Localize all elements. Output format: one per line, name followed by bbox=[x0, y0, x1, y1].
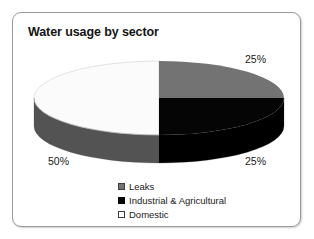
legend-item-leaks: Leaks bbox=[118, 180, 226, 193]
legend-label-industrial-agricultural: Industrial & Agricultural bbox=[129, 196, 226, 206]
legend-item-industrial-agricultural: Industrial & Agricultural bbox=[118, 194, 226, 207]
screenshot-root: Water usage by sector 25% 25% bbox=[0, 0, 314, 239]
legend-swatch-domestic bbox=[118, 211, 125, 218]
pie-label-industrial-agricultural: 25% bbox=[245, 155, 266, 167]
pie-chart: 25% 25% 50% bbox=[13, 37, 300, 177]
legend-label-leaks: Leaks bbox=[129, 182, 154, 192]
chart-legend: Leaks Industrial & Agricultural Domestic bbox=[118, 180, 226, 222]
legend-swatch-industrial-agricultural bbox=[118, 197, 125, 204]
legend-label-domestic: Domestic bbox=[129, 210, 169, 220]
pie-label-domestic: 50% bbox=[48, 155, 69, 167]
pie-label-leaks: 25% bbox=[245, 53, 266, 65]
chart-card: Water usage by sector 25% 25% bbox=[12, 12, 301, 227]
pie-slice-leaks bbox=[159, 61, 284, 98]
legend-item-domestic: Domestic bbox=[118, 208, 226, 221]
legend-swatch-leaks bbox=[118, 183, 125, 190]
